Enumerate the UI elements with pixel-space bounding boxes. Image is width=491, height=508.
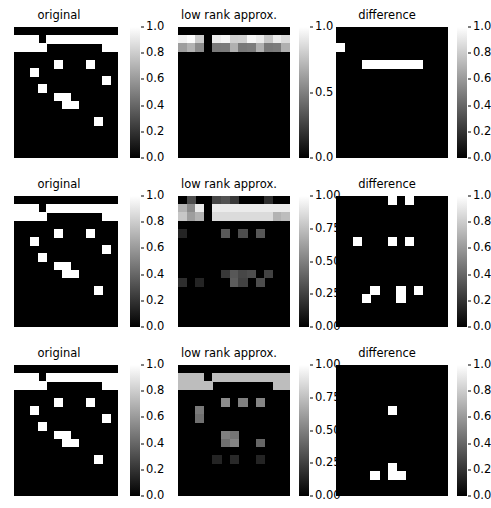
colorbar-tick-label: 0.0	[473, 490, 491, 502]
colorbar-tick-label: 0.4	[473, 100, 491, 112]
panel-difference-row3[interactable]: difference 1.00.80.60.40.20.0	[326, 338, 488, 507]
colorbar-tick-mark	[468, 496, 471, 497]
colorbar-tick-mark	[141, 469, 144, 470]
colorbar-tick-mark	[141, 417, 144, 418]
heatmap-difference-row3[interactable]	[336, 365, 448, 496]
heatmap-cell	[264, 270, 273, 279]
heatmap-original-row2[interactable]	[14, 196, 118, 327]
heatmap-cell	[370, 286, 379, 295]
heatmap-cell	[110, 212, 118, 221]
colorbar-tick-mark	[310, 158, 313, 159]
panel-title-difference: difference	[326, 9, 448, 22]
heatmap-cell	[38, 422, 47, 431]
colorbar-tick-mark	[141, 248, 144, 249]
colorbar-original-row3	[130, 365, 140, 496]
panel-original-row2[interactable]: original 1.00.80.60.40.20.0	[0, 169, 166, 338]
colorbar-tick-label: 0.2	[473, 295, 491, 307]
colorbar-tick-label: 0.0	[473, 321, 491, 333]
colorbar-tick-mark	[468, 365, 471, 366]
heatmap-cell	[54, 229, 63, 238]
panel-title-original: original	[0, 347, 118, 360]
heatmap-lowrank-row1[interactable]	[178, 27, 290, 158]
colorbar-tick-mark	[141, 79, 144, 80]
colorbar-tick-label: 0.4	[473, 269, 491, 281]
colorbar-tick-mark	[310, 327, 313, 328]
colorbar-tick-label: 0.8	[473, 47, 491, 59]
panel-title-original: original	[0, 178, 118, 191]
colorbar-tick-mark	[468, 300, 471, 301]
subplot-row-2: original 1.00.80.60.40.20.0 low rank app…	[0, 169, 488, 338]
colorbar-tick-label: 0.8	[473, 385, 491, 397]
panel-original-row1[interactable]: original 1.00.80.60.40.20.0	[0, 0, 166, 169]
colorbar-tick-mark	[468, 79, 471, 80]
colorbar-tick-label: 0.0	[146, 152, 164, 164]
heatmap-cell	[414, 60, 423, 69]
panel-lowrank-row1[interactable]: low rank approx. 1.00.50.0	[166, 0, 326, 169]
heatmap-cell	[195, 278, 204, 287]
heatmap-cell	[396, 294, 405, 303]
colorbar-tick-mark	[310, 365, 313, 366]
colorbar-tick-label: 0.0	[146, 490, 164, 502]
colorbar-tick-mark	[468, 27, 471, 28]
heatmap-cell	[256, 455, 265, 464]
heatmap-difference-row2[interactable]	[336, 196, 448, 327]
heatmap-cell	[256, 278, 265, 287]
colorbar-tick-label: 0.6	[146, 412, 164, 424]
panel-difference-row2[interactable]: difference 1.00.80.60.40.20.0	[326, 169, 488, 338]
colorbar-tick-mark	[141, 300, 144, 301]
colorbar-tick-mark	[141, 53, 144, 54]
heatmap-cell	[370, 471, 379, 480]
heatmap-lowrank-row3[interactable]	[178, 365, 290, 496]
panel-title-difference: difference	[326, 178, 448, 191]
colorbar-tick-label: 0.8	[146, 216, 164, 228]
heatmap-original-row1[interactable]	[14, 27, 118, 158]
panel-lowrank-row2[interactable]: low rank approx. 1.000.750.500.250.00	[166, 169, 326, 338]
heatmap-cell	[94, 117, 103, 126]
panel-original-row3[interactable]: original 1.00.80.60.40.20.0	[0, 338, 166, 507]
colorbar-tick-mark	[310, 397, 313, 398]
panel-title-difference: difference	[326, 347, 448, 360]
colorbar-tick-mark	[310, 92, 313, 93]
colorbar-tick-label: 0.4	[473, 438, 491, 450]
colorbar-tick-label: 0.2	[146, 464, 164, 476]
heatmap-cell	[102, 245, 111, 254]
colorbar-tick-mark	[468, 469, 471, 470]
colorbar-tick-mark	[310, 496, 313, 497]
heatmap-cell	[195, 43, 204, 52]
colorbar-tick-mark	[468, 196, 471, 197]
heatmap-cell	[353, 237, 362, 246]
heatmap-cell	[281, 212, 290, 221]
heatmap-cell	[38, 84, 47, 93]
colorbar-tick-mark	[141, 274, 144, 275]
heatmap-cell	[30, 237, 39, 246]
heatmap-cell	[110, 381, 118, 390]
heatmap-cell	[102, 414, 111, 423]
heatmap-cell	[38, 381, 47, 390]
heatmap-cell	[388, 406, 397, 415]
panel-difference-row1[interactable]: difference 1.00.80.60.40.20.0	[326, 0, 488, 169]
colorbar-tick-mark	[310, 27, 313, 28]
heatmap-cell	[54, 398, 63, 407]
colorbar-tick-label: 0.8	[146, 47, 164, 59]
heatmap-cell	[388, 196, 397, 205]
colorbar-original-row2	[130, 196, 140, 327]
colorbar-tick-label: 0.4	[146, 269, 164, 281]
panel-title-lowrank: low rank approx.	[166, 9, 292, 22]
heatmap-cell	[86, 229, 95, 238]
colorbar-tick-label: 0.0	[473, 152, 491, 164]
heatmap-cell	[238, 229, 247, 238]
colorbar-tick-mark	[468, 443, 471, 444]
heatmap-cell	[405, 237, 414, 246]
colorbar-tick-label: 1.0	[146, 359, 164, 371]
heatmap-original-row3[interactable]	[14, 365, 118, 496]
heatmap-cell	[388, 237, 397, 246]
heatmap-lowrank-row2[interactable]	[178, 196, 290, 327]
heatmap-cell	[70, 101, 79, 110]
heatmap-difference-row1[interactable]	[336, 27, 448, 158]
colorbar-original-row1	[130, 27, 140, 158]
colorbar-tick-mark	[141, 27, 144, 28]
heatmap-cell	[212, 455, 221, 464]
colorbar-tick-label: 1.0	[473, 190, 491, 202]
panel-lowrank-row3[interactable]: low rank approx. 1.000.750.500.250.00	[166, 338, 326, 507]
